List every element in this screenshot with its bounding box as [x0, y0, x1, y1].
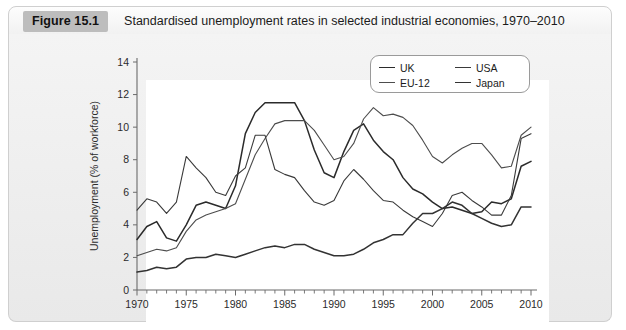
legend-item-japan: Japan	[455, 75, 531, 90]
y-tick-label: 8	[123, 153, 129, 165]
y-tick-label: 0	[123, 284, 129, 296]
legend-item-uk: UK	[379, 60, 455, 75]
legend-item-usa: USA	[455, 60, 531, 75]
y-tick-label: 2	[123, 251, 129, 263]
line-chart: 0246810121419701975198019851990199520002…	[0, 0, 626, 330]
legend-label-eu12: EU-12	[400, 77, 430, 89]
x-tick-label: 2010	[519, 298, 543, 310]
y-tick-label: 6	[123, 186, 129, 198]
legend-swatch-eu12	[379, 82, 395, 83]
legend-swatch-usa	[455, 67, 471, 68]
legend-label-japan: Japan	[476, 77, 505, 89]
x-tick-label: 1970	[125, 298, 149, 310]
figure-root: Figure 15.1 Standardised unemployment ra…	[0, 0, 626, 330]
legend-swatch-uk	[379, 67, 395, 68]
x-tick-label: 1995	[372, 298, 396, 310]
x-tick-label: 1980	[224, 298, 248, 310]
series-line-japan	[137, 202, 531, 272]
x-tick-label: 2005	[470, 298, 494, 310]
legend-item-eu12: EU-12	[379, 75, 455, 90]
x-tick-label: 2000	[421, 298, 445, 310]
legend-label-usa: USA	[476, 62, 498, 74]
x-tick-label: 1985	[273, 298, 297, 310]
y-tick-label: 14	[117, 56, 129, 68]
y-axis-title: Unemployment (% of workforce)	[88, 101, 100, 251]
series-line-eu-12	[137, 108, 531, 256]
y-tick-label: 10	[117, 121, 129, 133]
y-tick-label: 12	[117, 88, 129, 100]
chart-legend: UK USA EU-12 Japan	[370, 55, 530, 93]
legend-swatch-japan	[455, 82, 471, 83]
x-tick-label: 1975	[175, 298, 199, 310]
x-tick-label: 1990	[322, 298, 346, 310]
y-tick-label: 4	[123, 218, 129, 230]
legend-label-uk: UK	[400, 62, 415, 74]
